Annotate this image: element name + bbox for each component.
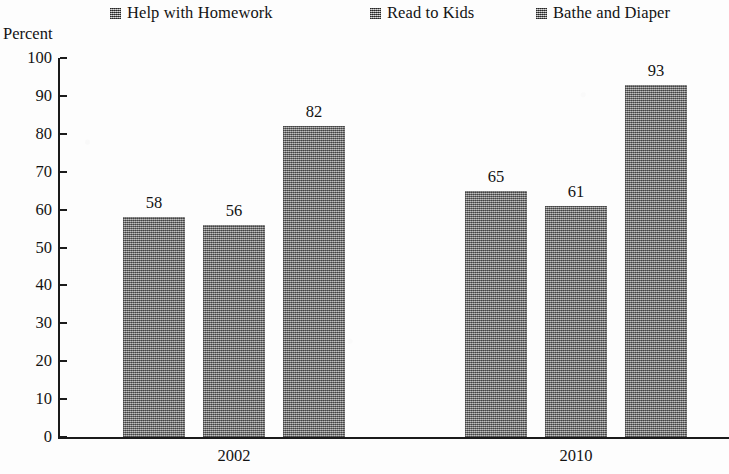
y-axis-tick: [60, 247, 67, 249]
bar-value-label: 82: [269, 104, 359, 121]
y-axis-tick-label: 30: [6, 315, 52, 332]
bar[interactable]: [203, 225, 265, 437]
y-axis-tick-label: 90: [6, 88, 52, 105]
y-axis-tick-label: 0: [6, 429, 52, 446]
y-axis-tick: [60, 171, 67, 173]
y-axis-tick-label: 70: [6, 163, 52, 180]
y-axis-tick: [60, 133, 67, 135]
bar-value-label: 61: [531, 184, 621, 201]
bar[interactable]: [283, 126, 345, 437]
bar-value-label: 65: [451, 169, 541, 186]
bar-value-label: 93: [611, 63, 701, 80]
y-axis-tick: [60, 322, 67, 324]
bar[interactable]: [625, 85, 687, 437]
bar-chart: Help with Homework Read to Kids Bathe an…: [0, 0, 729, 474]
x-axis-category-label: 2010: [516, 448, 636, 465]
bar[interactable]: [465, 191, 527, 437]
y-axis-tick: [60, 436, 67, 438]
y-axis-tick-label: 10: [6, 391, 52, 408]
y-axis-tick: [60, 209, 67, 211]
y-axis-tick-label: 60: [6, 201, 52, 218]
bar[interactable]: [545, 206, 607, 437]
bar-value-label: 58: [109, 195, 199, 212]
y-axis-tick: [60, 398, 67, 400]
y-axis-tick-label: 80: [6, 126, 52, 143]
y-axis-tick: [60, 360, 67, 362]
plot-area: 1009080706050403020100585682200265619320…: [0, 0, 729, 474]
bar-value-label: 56: [189, 203, 279, 220]
y-axis-tick: [60, 95, 67, 97]
x-axis-line: [58, 437, 729, 439]
bar[interactable]: [123, 217, 185, 437]
y-axis-tick-label: 50: [6, 239, 52, 256]
y-axis-tick: [60, 284, 67, 286]
y-axis-line: [58, 58, 60, 439]
x-axis-category-label: 2002: [174, 448, 294, 465]
y-axis-tick: [60, 57, 67, 59]
y-axis-tick-label: 40: [6, 277, 52, 294]
y-axis-tick-label: 20: [6, 353, 52, 370]
y-axis-tick-label: 100: [6, 50, 52, 67]
